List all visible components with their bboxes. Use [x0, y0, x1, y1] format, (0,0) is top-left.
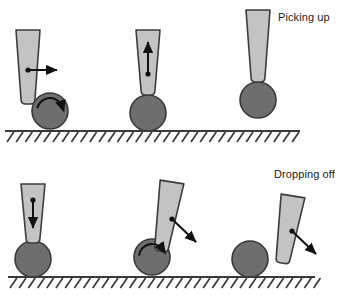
robot-gripper-sequence-figure: Picking up Dropping off	[0, 0, 349, 296]
picking-up-ground-hatch	[35, 132, 42, 142]
dropping-off-ground-hatch	[176, 278, 183, 288]
sequence-dropping-off	[8, 180, 320, 288]
picking-up-frame-1	[16, 30, 68, 129]
dropping-off-ground-hatch	[19, 278, 26, 288]
picking-up-ground-hatch	[127, 132, 134, 142]
dropping-off-frame-3-diagonal-down-right-arrow	[292, 231, 316, 254]
dropping-off-ground-hatch	[185, 278, 192, 288]
dropping-off-ground-hatch	[130, 278, 137, 288]
picking-up-ground-hatch	[53, 132, 60, 142]
picking-up-ground-hatch	[228, 132, 235, 142]
dropping-off-frame-2-diagonal-down-right-arrow	[172, 219, 196, 242]
dropping-off-frame-2-gripper	[149, 180, 184, 253]
dropping-off-ground-hatch	[111, 278, 118, 288]
dropping-off-ground-hatch	[120, 278, 127, 288]
picking-up-label: Picking up	[278, 11, 330, 23]
picking-up-ground-hatch	[81, 132, 88, 142]
picking-up-ground-hatch	[99, 132, 106, 142]
picking-up-ground-hatch	[62, 132, 69, 142]
picking-up-ground-hatch	[274, 132, 281, 142]
dropping-off-ground	[8, 277, 320, 288]
dropping-off-ground-hatch	[314, 278, 321, 288]
picking-up-frame-2-ball	[130, 95, 166, 131]
picking-up-ground-hatch	[16, 132, 23, 142]
dropping-off-ground-hatch	[286, 278, 293, 288]
dropping-off-ground-hatch	[295, 278, 302, 288]
picking-up-ground-hatch	[209, 132, 216, 142]
picking-up-ground-hatch	[44, 132, 51, 142]
dropping-off-ground-hatch	[148, 278, 155, 288]
dropping-off-label: Dropping off	[274, 168, 335, 180]
dropping-off-ground-hatch	[240, 278, 247, 288]
picking-up-ground-hatch	[182, 132, 189, 142]
dropping-off-frame-3-ball	[232, 241, 268, 277]
picking-up-frame-1-gripper	[16, 30, 40, 104]
dropping-off-ground-hatch	[304, 278, 311, 288]
dropping-off-ground-hatch	[56, 278, 63, 288]
picking-up-ground-hatch	[7, 132, 14, 142]
picking-up-ground-hatch	[246, 132, 253, 142]
dropping-off-frame-2-diagonal-down-right-arrow-origin-dot	[169, 216, 174, 221]
picking-up-ground-hatch	[108, 132, 115, 142]
picking-up-frame-1-horizontal-right-arrow-origin-dot	[25, 67, 30, 72]
picking-up-ground-hatch	[90, 132, 97, 142]
dropping-off-ground-hatch	[231, 278, 238, 288]
picking-up-ground-hatch	[71, 132, 78, 142]
dropping-off-ground-hatch	[38, 278, 45, 288]
dropping-off-ground-hatch	[74, 278, 81, 288]
dropping-off-ground-hatch	[65, 278, 72, 288]
picking-up-ground-hatch	[163, 132, 170, 142]
picking-up-ground-hatch	[255, 132, 262, 142]
dropping-off-frame-1	[15, 184, 51, 277]
dropping-off-ground-hatch	[10, 278, 17, 288]
dropping-off-frame-1-ball	[15, 241, 51, 277]
dropping-off-ground-hatch	[258, 278, 265, 288]
picking-up-frame-3-ball	[240, 82, 276, 118]
picking-up-ground-hatch	[173, 132, 180, 142]
picking-up-ground-hatch	[145, 132, 152, 142]
dropping-off-ground-hatch	[157, 278, 164, 288]
dropping-off-ground-hatch	[249, 278, 256, 288]
dropping-off-ground-hatch	[194, 278, 201, 288]
picking-up-ground-hatch	[154, 132, 161, 142]
dropping-off-frame-1-vertical-down-arrow-origin-dot	[30, 197, 35, 202]
picking-up-ground-hatch	[265, 132, 272, 142]
picking-up-ground-hatch	[292, 132, 299, 142]
dropping-off-ground-hatch	[47, 278, 54, 288]
picking-up-ground-hatch	[283, 132, 290, 142]
dropping-off-ground-hatch	[166, 278, 173, 288]
picking-up-frame-3	[240, 10, 276, 118]
dropping-off-ground-hatch	[84, 278, 91, 288]
dropping-off-ground-hatch	[102, 278, 109, 288]
picking-up-ground-hatch	[200, 132, 207, 142]
picking-up-ground	[5, 131, 300, 142]
picking-up-ground-hatch	[136, 132, 143, 142]
dropping-off-frame-3-diagonal-down-right-arrow-origin-dot	[289, 228, 294, 233]
picking-up-frame-3-gripper	[246, 10, 270, 82]
dropping-off-ground-hatch	[28, 278, 35, 288]
picking-up-ground-hatch	[237, 132, 244, 142]
dropping-off-frame-3	[232, 194, 316, 277]
dropping-off-frame-3-gripper	[271, 194, 305, 265]
dropping-off-ground-hatch	[277, 278, 284, 288]
picking-up-ground-hatch	[25, 132, 32, 142]
dropping-off-ground-hatch	[139, 278, 146, 288]
picking-up-ground-hatch	[219, 132, 226, 142]
picking-up-frame-2-vertical-up-arrow-origin-dot	[145, 71, 150, 76]
dropping-off-ground-hatch	[268, 278, 275, 288]
dropping-off-ground-hatch	[203, 278, 210, 288]
picking-up-frame-2	[130, 30, 166, 131]
dropping-off-ground-hatch	[212, 278, 219, 288]
dropping-off-ground-hatch	[222, 278, 229, 288]
sequence-picking-up	[5, 10, 300, 142]
dropping-off-frame-2	[134, 180, 196, 275]
picking-up-ground-hatch	[117, 132, 124, 142]
figure-canvas	[0, 0, 349, 296]
dropping-off-ground-hatch	[93, 278, 100, 288]
picking-up-ground-hatch	[191, 132, 198, 142]
